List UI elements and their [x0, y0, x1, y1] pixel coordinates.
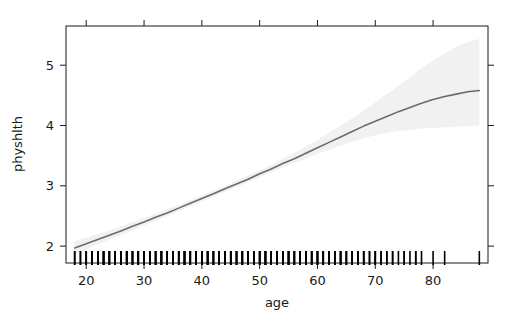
plot-canvas: 20304050607080 2345 age physhlth [0, 0, 510, 330]
x-tick-label: 60 [309, 273, 326, 288]
x-tick-label: 40 [194, 273, 211, 288]
y-tick-label: 4 [46, 118, 54, 133]
x-tick-label: 50 [251, 273, 268, 288]
y-axis-title: physhlth [10, 116, 25, 172]
x-tick-label: 70 [367, 273, 384, 288]
y-tick-label: 3 [46, 178, 54, 193]
x-tick-label: 30 [136, 273, 153, 288]
y-tick-label: 2 [46, 239, 54, 254]
y-tick-label: 5 [46, 58, 54, 73]
x-tick-label: 20 [78, 273, 95, 288]
effect-plot-figure: 20304050607080 2345 age physhlth [0, 0, 510, 330]
x-tick-label: 80 [425, 273, 442, 288]
x-axis-title: age [265, 295, 289, 310]
